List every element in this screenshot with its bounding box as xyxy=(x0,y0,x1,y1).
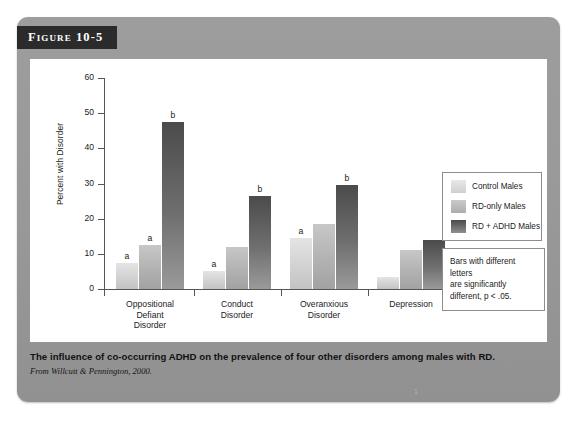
bar xyxy=(377,277,399,289)
y-tick-label: 60 xyxy=(84,72,98,82)
page-mark: 1 xyxy=(414,388,418,395)
bar-significance-letter: a xyxy=(139,233,161,243)
category-label-line: Conduct xyxy=(192,299,282,310)
figure-number-badge: Figure 10-5 xyxy=(17,26,117,49)
bar-significance-letter: b xyxy=(162,110,184,120)
bar xyxy=(226,247,248,289)
note-line-3: different, p < .05. xyxy=(450,291,537,303)
bar xyxy=(139,245,161,289)
bar xyxy=(336,185,358,289)
y-tick: 40 xyxy=(98,148,105,149)
y-tick: 30 xyxy=(98,184,105,185)
note-line-1: Bars with different letters xyxy=(450,256,537,279)
y-tick: 60 xyxy=(98,78,105,79)
category-label-line: Defiant xyxy=(105,310,195,321)
legend-swatch-rd-only-males xyxy=(451,200,466,213)
x-tick xyxy=(368,290,369,296)
bar-significance-letter: b xyxy=(249,184,271,194)
y-tick-label: 50 xyxy=(84,107,98,117)
figure-screenshot: Figure 10-5 Percent with Disorder 010203… xyxy=(0,0,577,431)
x-tick xyxy=(194,290,195,296)
chart-card: Percent with Disorder 0102030405060 aaba… xyxy=(30,59,547,342)
y-axis-title: Percent with Disorder xyxy=(55,94,65,234)
x-tick xyxy=(104,290,105,296)
bar xyxy=(290,238,312,289)
figure-source: From Willcutt & Pennington, 2000. xyxy=(30,366,547,376)
bar-significance-letter: a xyxy=(203,259,225,269)
bar xyxy=(249,196,271,289)
category-label-line: Disorder xyxy=(105,320,195,331)
legend-item: RD-only Males xyxy=(451,200,533,213)
bar xyxy=(116,263,138,289)
note-line-2: are significantly xyxy=(450,279,537,291)
y-tick-label: 0 xyxy=(89,283,98,293)
legend-item: Control Males xyxy=(451,180,533,193)
y-tick: 20 xyxy=(98,219,105,220)
x-axis-category-label: OveranxiousDisorder xyxy=(279,299,369,320)
figure-caption-block: The influence of co-occurring ADHD on th… xyxy=(30,350,547,376)
x-axis-line xyxy=(104,289,454,290)
x-tick xyxy=(281,290,282,296)
legend-label-rd-adhd-males: RD + ADHD Males xyxy=(472,222,540,231)
bar xyxy=(162,122,184,289)
bar-significance-letter: a xyxy=(290,226,312,236)
figure-caption: The influence of co-occurring ADHD on th… xyxy=(30,350,547,363)
bar-chart-plot: Percent with Disorder 0102030405060 aaba… xyxy=(30,59,547,342)
bar xyxy=(313,224,335,289)
figure-panel: Figure 10-5 Percent with Disorder 010203… xyxy=(17,17,560,402)
x-axis-category-label: OppositionalDefiantDisorder xyxy=(105,299,195,331)
x-axis-category-label: ConductDisorder xyxy=(192,299,282,320)
legend-swatch-control-males xyxy=(451,180,466,193)
bar xyxy=(400,250,422,289)
y-tick: 50 xyxy=(98,113,105,114)
category-label-line: Overanxious xyxy=(279,299,369,310)
bar-significance-letter: a xyxy=(116,251,138,261)
category-label-line: Disorder xyxy=(192,310,282,321)
legend-label-control-males: Control Males xyxy=(472,182,523,191)
y-tick-label: 10 xyxy=(84,248,98,258)
legend-label-rd-only-males: RD-only Males xyxy=(472,202,526,211)
legend-item: RD + ADHD Males xyxy=(451,220,533,233)
y-tick-label: 20 xyxy=(84,213,98,223)
y-tick-label: 30 xyxy=(84,178,98,188)
y-tick-label: 40 xyxy=(84,142,98,152)
bar xyxy=(203,271,225,289)
chart-legend: Control Males RD-only Males RD + ADHD Ma… xyxy=(442,172,542,241)
bar-significance-letter: b xyxy=(336,173,358,183)
figure-number-label: Figure 10-5 xyxy=(28,30,103,45)
category-label-line: Disorder xyxy=(279,310,369,321)
category-label-line: Oppositional xyxy=(105,299,195,310)
legend-swatch-rd-adhd-males xyxy=(451,220,466,233)
significance-note-box: Bars with different letters are signific… xyxy=(442,248,545,311)
y-tick: 10 xyxy=(98,254,105,255)
